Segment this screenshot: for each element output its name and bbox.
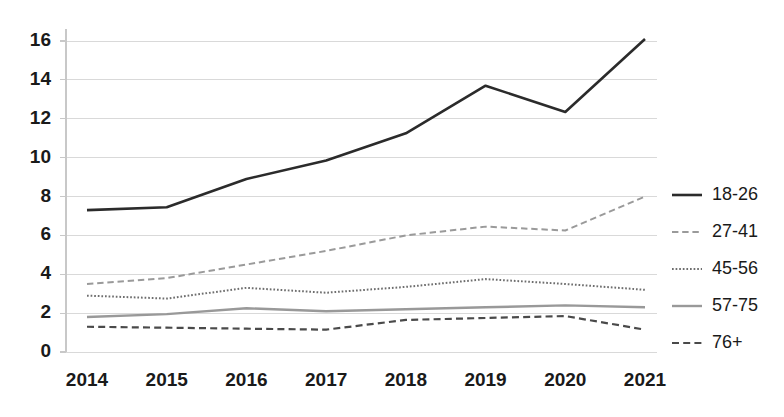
x-axis-tick-label: 2019 bbox=[464, 369, 506, 390]
legend-label-57-75: 57-75 bbox=[712, 295, 758, 315]
x-axis-tick-labels: 20142015201620172018201920202021 bbox=[66, 369, 667, 390]
legend-label-27-41: 27-41 bbox=[712, 221, 758, 241]
x-axis-tick-label: 2014 bbox=[66, 369, 109, 390]
legend-label-18-26: 18-26 bbox=[712, 184, 758, 204]
y-axis-tick-label: 10 bbox=[30, 146, 51, 167]
x-axis-tick-label: 2016 bbox=[225, 369, 267, 390]
line-chart: 0246810121416 20142015201620172018201920… bbox=[0, 0, 784, 417]
legend-label-45-56: 45-56 bbox=[712, 258, 758, 278]
series-line-76plus bbox=[87, 316, 645, 330]
x-axis-tick-label: 2020 bbox=[544, 369, 586, 390]
data-series-group bbox=[87, 39, 645, 330]
series-line-18-26 bbox=[87, 39, 645, 210]
axis-lines bbox=[60, 29, 66, 352]
x-axis-tick-label: 2021 bbox=[624, 369, 667, 390]
chart-canvas: 0246810121416 20142015201620172018201920… bbox=[0, 0, 784, 417]
chart-legend: 18-2627-4145-5657-7576+ bbox=[672, 184, 758, 352]
y-axis-tick-label: 14 bbox=[30, 68, 52, 89]
y-axis-tick-label: 0 bbox=[40, 340, 51, 361]
y-axis-tick-label: 16 bbox=[30, 29, 51, 50]
series-line-27-41 bbox=[87, 197, 645, 284]
x-axis-tick-label: 2018 bbox=[385, 369, 427, 390]
y-axis-tick-label: 2 bbox=[40, 301, 51, 322]
y-axis-tick-label: 4 bbox=[40, 262, 51, 283]
y-axis-tick-label: 6 bbox=[40, 223, 51, 244]
y-axis-tick-label: 8 bbox=[40, 185, 51, 206]
y-axis-tick-label: 12 bbox=[30, 107, 51, 128]
x-axis-tick-label: 2017 bbox=[305, 369, 347, 390]
legend-label-76plus: 76+ bbox=[712, 332, 743, 352]
y-axis-tick-labels: 0246810121416 bbox=[30, 29, 52, 361]
x-axis-tick-label: 2015 bbox=[146, 369, 189, 390]
series-line-45-56 bbox=[87, 279, 645, 298]
